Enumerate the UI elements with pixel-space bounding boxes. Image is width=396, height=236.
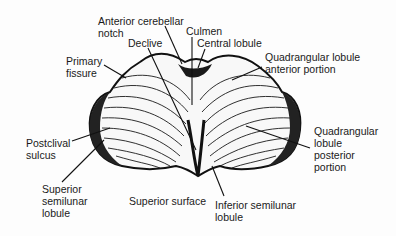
cerebellum-diagram: Anterior cerebellar notch Culmen Declive…	[0, 0, 396, 236]
label-postclival-sulcus: Postclival sulcus	[26, 137, 70, 161]
label-central-lobule: Central lobule	[197, 37, 262, 49]
label-anterior-cerebellar-notch: Anterior cerebellar notch	[98, 15, 184, 39]
label-primary-fissure: Primary fissure	[66, 55, 102, 79]
label-declive: Declive	[128, 37, 162, 49]
label-culmen: Culmen	[186, 25, 222, 37]
label-superior-semilunar-lobule: Superior semilunar lobule	[42, 183, 88, 219]
label-quadrangular-lobule-anterior: Quadrangular lobule anterior portion	[265, 51, 360, 75]
label-superior-surface: Superior surface	[129, 195, 206, 207]
label-inferior-semilunar-lobule: Inferior semilunar lobule	[215, 199, 296, 223]
label-quadrangular-lobule-posterior: Quadrangular lobule posterior portion	[314, 125, 378, 173]
